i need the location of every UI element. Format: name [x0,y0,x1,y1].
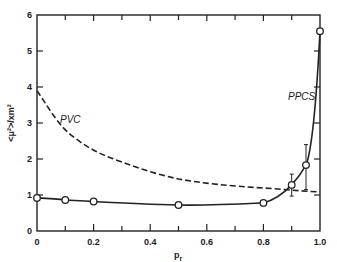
x-axis-ticks [65,15,291,231]
pvc-label: PVC [60,114,81,125]
x-axis-label: pr [174,250,183,262]
y-tick-label: 2 [27,154,32,164]
y-tick-labels: 0 1 2 3 4 5 6 [27,10,32,236]
y-tick-label: 6 [27,10,32,20]
y-tick-label: 4 [27,82,32,92]
x-tick-label: 1.0 [314,237,327,247]
y-tick-label: 0 [27,226,32,236]
data-point [90,198,97,205]
y-tick-label: 1 [27,190,32,200]
data-point [34,195,41,202]
data-point [62,197,69,204]
y-tick-label: 3 [27,118,32,128]
ppcs-label: PPCS [288,91,316,102]
line-chart: 0 0.2 0.4 0.6 0.8 1.0 0 1 2 3 4 5 6 pr <… [0,0,337,262]
data-point [175,202,182,209]
y-tick-label: 5 [27,46,32,56]
x-tick-label: 0.2 [87,237,100,247]
x-tick-label: 0.4 [144,237,157,247]
data-point [260,200,267,207]
y-axis-label: <μ²>/xm² [6,104,16,142]
x-tick-label: 0 [34,237,39,247]
data-point [288,182,295,189]
x-tick-labels: 0 0.2 0.4 0.6 0.8 1.0 [34,237,326,247]
x-tick-label: 0.6 [201,237,214,247]
data-point [317,28,324,35]
x-tick-label: 0.8 [257,237,270,247]
chart-container: 0 0.2 0.4 0.6 0.8 1.0 0 1 2 3 4 5 6 pr <… [0,0,337,262]
data-point [303,162,310,169]
pvc-curve [37,91,320,192]
